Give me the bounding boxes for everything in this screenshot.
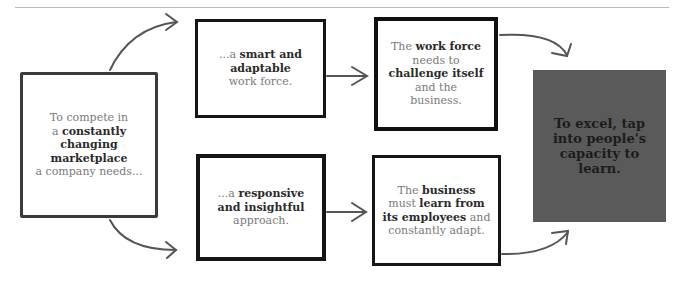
smart-workforce-text: ...a smart and adaptable work force.: [219, 48, 302, 89]
responsive-approach-box: ...a responsive and insightful approach.: [196, 154, 326, 261]
start-text: To compete in a constantly changing mark…: [36, 111, 143, 179]
arrow-business-to-conclusion-icon: [502, 232, 568, 254]
smart-workforce-box: ...a smart and adaptable work force.: [195, 19, 326, 118]
conclusion-box: To excel, tap into people's capacity to …: [533, 70, 666, 222]
arrow-start-to-responsive-icon: [110, 220, 176, 250]
business-learn-box: The business must learn from its employe…: [372, 155, 501, 266]
workforce-challenge-box: The work force needs to challenge itself…: [374, 17, 498, 131]
start-box: To compete in a constantly changing mark…: [20, 72, 158, 218]
business-learn-text: The business must learn from its employe…: [383, 184, 491, 238]
conclusion-text: To excel, tap into people's capacity to …: [553, 116, 646, 176]
arrow-workforce-to-conclusion-icon: [500, 35, 567, 55]
responsive-approach-text: ...a responsive and insightful approach.: [218, 187, 305, 228]
workforce-challenge-text: The work force needs to challenge itself…: [388, 40, 483, 108]
